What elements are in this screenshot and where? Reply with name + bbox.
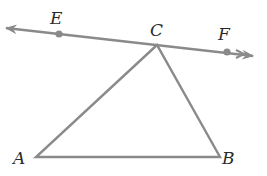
geometry-diagram: E C F A B (0, 0, 267, 176)
label-b: B (221, 148, 235, 168)
point-f (223, 48, 230, 55)
label-c: C (150, 20, 163, 40)
label-f: F (217, 24, 231, 44)
diagram-canvas: E C F A B (0, 0, 267, 176)
triangle-abc (36, 45, 220, 157)
point-e (55, 30, 62, 37)
label-a: A (11, 148, 25, 168)
label-e: E (49, 8, 63, 28)
line-ef (6, 28, 253, 56)
